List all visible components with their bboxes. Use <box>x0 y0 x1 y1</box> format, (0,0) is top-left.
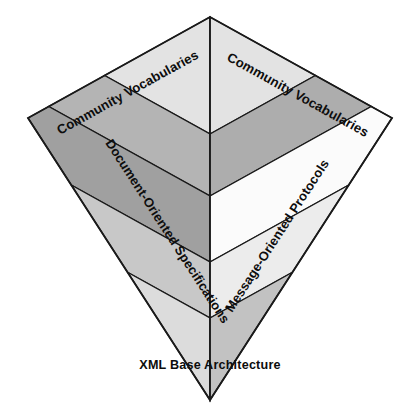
label-base-xml-base-architecture: XML Base Architecture <box>139 358 280 372</box>
chevron-pyramid-diagram: Community VocabulariesCommunity Vocabula… <box>0 0 418 418</box>
left-panel-bands <box>28 17 210 400</box>
diagram-root: Community VocabulariesCommunity Vocabula… <box>0 0 418 418</box>
